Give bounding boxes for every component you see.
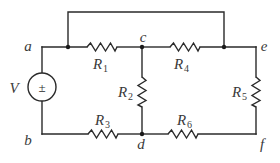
svg-text:R: R (94, 112, 104, 128)
svg-text:2: 2 (128, 91, 133, 102)
svg-text:R: R (117, 84, 127, 100)
resistor-r5 (252, 77, 260, 107)
svg-text:4: 4 (184, 63, 189, 74)
label-r2: R 2 (117, 84, 133, 102)
junction-dot-c (140, 45, 144, 49)
svg-text:6: 6 (187, 119, 192, 130)
junction-dot-e-bypass (222, 45, 226, 49)
resistor-r2 (138, 77, 146, 107)
resistor-r3 (88, 130, 118, 138)
label-r4: R 4 (173, 56, 189, 74)
svg-text:R: R (173, 56, 183, 72)
node-label-b: b (24, 132, 32, 148)
node-label-a: a (24, 38, 32, 54)
node-label-c: c (140, 29, 147, 45)
svg-text:R: R (231, 84, 241, 100)
svg-text:1: 1 (103, 63, 108, 74)
node-label-e: e (261, 38, 268, 54)
resistor-r4 (170, 43, 200, 51)
svg-text:R: R (92, 56, 102, 72)
circuit-diagram: ± a b c d e f V R 1 R 4 R 3 R 6 R 2 R 5 (0, 0, 280, 163)
svg-text:R: R (176, 112, 186, 128)
plus-minus-symbol: ± (38, 80, 45, 95)
svg-text:5: 5 (242, 91, 247, 102)
resistor-r6 (168, 130, 198, 138)
resistor-r1 (87, 43, 117, 51)
label-r5: R 5 (231, 84, 247, 102)
label-r6: R 6 (176, 112, 192, 130)
node-label-f: f (260, 136, 266, 152)
label-r3: R 3 (94, 112, 110, 130)
label-r1: R 1 (92, 56, 108, 74)
junction-dot-a-bypass (66, 45, 70, 49)
svg-text:3: 3 (105, 119, 110, 130)
source-label-v: V (9, 80, 20, 96)
node-label-d: d (137, 136, 145, 152)
